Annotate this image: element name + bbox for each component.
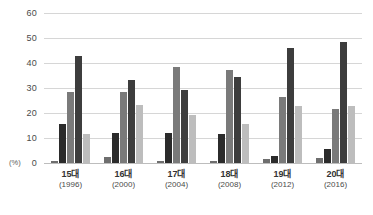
x-axis-label: 20대(2016) bbox=[309, 168, 362, 191]
x-axis-label-main: 19대 bbox=[256, 168, 309, 180]
bar bbox=[210, 161, 217, 163]
bar bbox=[271, 156, 278, 163]
bar-group bbox=[44, 13, 97, 163]
bar bbox=[120, 92, 127, 163]
x-axis-label-main: 15대 bbox=[44, 168, 97, 180]
bar bbox=[218, 134, 225, 164]
x-axis-labels: 15대(1996)16대(2000)17대(2004)18대(2008)19대(… bbox=[44, 168, 362, 191]
x-axis-label: 18대(2008) bbox=[203, 168, 256, 191]
bar-chart: (%) 0102030405060 15대(1996)16대(2000)17대(… bbox=[0, 0, 373, 215]
y-axis-unit-label: (%) bbox=[9, 159, 21, 167]
bar bbox=[324, 149, 331, 163]
bar bbox=[59, 124, 66, 163]
bar-group bbox=[150, 13, 203, 163]
bar bbox=[181, 90, 188, 163]
bar bbox=[112, 133, 119, 163]
bar bbox=[104, 157, 111, 164]
y-axis-tick-label: 20 bbox=[27, 108, 37, 118]
x-axis-label-sub: (2016) bbox=[309, 180, 362, 191]
gridline-0 bbox=[44, 163, 362, 164]
y-axis-tick-label: 50 bbox=[27, 33, 37, 43]
x-axis-label-sub: (2004) bbox=[150, 180, 203, 191]
x-axis-label-sub: (2012) bbox=[256, 180, 309, 191]
bar bbox=[136, 105, 143, 164]
bar bbox=[295, 106, 302, 163]
y-axis-tick-label: 0 bbox=[32, 158, 37, 168]
bar bbox=[67, 92, 74, 163]
bar bbox=[287, 48, 294, 164]
bar bbox=[279, 97, 286, 164]
bar bbox=[75, 56, 82, 164]
bar bbox=[189, 115, 196, 163]
bar bbox=[263, 159, 270, 163]
x-axis-label: 16대(2000) bbox=[97, 168, 150, 191]
x-axis-label: 15대(1996) bbox=[44, 168, 97, 191]
bar bbox=[173, 67, 180, 164]
x-axis-label-sub: (1996) bbox=[44, 180, 97, 191]
bar-group bbox=[256, 13, 309, 163]
y-axis-tick-label: 60 bbox=[27, 8, 37, 18]
bar-group bbox=[309, 13, 362, 163]
bar bbox=[348, 106, 355, 164]
bar bbox=[226, 70, 233, 163]
bar-group bbox=[97, 13, 150, 163]
bar bbox=[157, 161, 164, 163]
y-axis-tick-label: 30 bbox=[27, 83, 37, 93]
x-axis-label-main: 16대 bbox=[97, 168, 150, 180]
bar-groups bbox=[44, 13, 362, 163]
bar bbox=[51, 161, 58, 163]
x-axis-label-sub: (2000) bbox=[97, 180, 150, 191]
y-axis-tick-label: 10 bbox=[27, 133, 37, 143]
x-axis-label: 17대(2004) bbox=[150, 168, 203, 191]
bar bbox=[340, 42, 347, 163]
bar bbox=[128, 80, 135, 163]
x-axis-label-sub: (2008) bbox=[203, 180, 256, 191]
x-axis-label: 19대(2012) bbox=[256, 168, 309, 191]
x-axis-label-main: 18대 bbox=[203, 168, 256, 180]
bar bbox=[83, 134, 90, 163]
y-axis-tick-label: 40 bbox=[27, 58, 37, 68]
plot-area: 0102030405060 bbox=[44, 13, 362, 163]
bar bbox=[234, 77, 241, 163]
x-axis-label-main: 20대 bbox=[309, 168, 362, 180]
bar bbox=[316, 158, 323, 163]
bar-group bbox=[203, 13, 256, 163]
bar bbox=[242, 124, 249, 163]
bar bbox=[332, 109, 339, 163]
bar bbox=[165, 133, 172, 163]
x-axis-label-main: 17대 bbox=[150, 168, 203, 180]
